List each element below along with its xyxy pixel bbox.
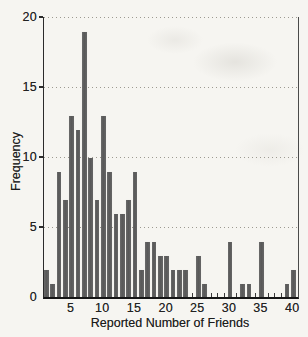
x-minor-tick — [211, 293, 212, 297]
gridline-y-20 — [44, 17, 298, 18]
y-tick-label-15: 15 — [0, 80, 37, 94]
y-tick-label-10: 10 — [0, 150, 37, 164]
plot-area — [43, 17, 299, 299]
bar-x25 — [196, 256, 201, 297]
bar-x13 — [120, 214, 125, 297]
y-tick — [39, 156, 43, 158]
bar-x23 — [183, 270, 188, 297]
y-tick — [39, 16, 43, 18]
bar-x30 — [228, 242, 233, 297]
bar-x6 — [76, 130, 81, 297]
bar-x16 — [139, 270, 144, 297]
x-tick-label-5: 5 — [67, 301, 74, 315]
bar-x7 — [82, 32, 87, 297]
bar-x19 — [158, 256, 163, 297]
x-tick-label-20: 20 — [158, 301, 173, 315]
y-tick-label-0: 0 — [0, 290, 37, 304]
x-minor-tick — [192, 293, 193, 297]
y-tick-label-5: 5 — [0, 220, 37, 234]
bar-x12 — [114, 214, 119, 297]
bar-x1 — [44, 270, 49, 297]
bar-x39 — [285, 284, 290, 297]
bar-x20 — [164, 256, 169, 297]
bar-x3 — [57, 172, 62, 297]
x-minor-tick — [268, 293, 269, 297]
bar-x14 — [126, 200, 131, 297]
bar-x32 — [240, 284, 245, 297]
y-tick — [39, 86, 43, 88]
bar-x35 — [259, 242, 264, 297]
bar-x10 — [101, 116, 106, 297]
x-minor-tick — [236, 293, 237, 297]
bar-x8 — [88, 158, 93, 297]
x-minor-tick — [274, 293, 275, 297]
x-tick-label-30: 30 — [222, 301, 237, 315]
x-minor-tick — [224, 293, 225, 297]
histogram-figure: Frequency Reported Number of Friends 051… — [0, 0, 308, 337]
bar-x15 — [133, 172, 138, 297]
y-tick — [39, 226, 43, 228]
bar-x40 — [291, 270, 296, 297]
bar-x26 — [202, 284, 207, 297]
x-tick-label-40: 40 — [285, 301, 300, 315]
x-tick-label-25: 25 — [190, 301, 205, 315]
bar-x17 — [145, 242, 150, 297]
bar-x5 — [69, 116, 74, 297]
x-tick-label-10: 10 — [95, 301, 110, 315]
y-tick-label-20: 20 — [0, 10, 37, 24]
x-minor-tick — [281, 293, 282, 297]
x-minor-tick — [255, 293, 256, 297]
x-minor-tick — [217, 293, 218, 297]
bar-x21 — [171, 270, 176, 297]
x-axis-title: Reported Number of Friends — [43, 316, 297, 330]
bar-x2 — [50, 284, 55, 297]
bar-x11 — [107, 172, 112, 297]
bar-x18 — [152, 242, 157, 297]
bar-x4 — [63, 200, 68, 297]
bar-x9 — [95, 200, 100, 297]
x-tick-label-15: 15 — [127, 301, 142, 315]
x-tick-label-35: 35 — [253, 301, 268, 315]
bar-x33 — [247, 284, 252, 297]
bar-x22 — [177, 270, 182, 297]
